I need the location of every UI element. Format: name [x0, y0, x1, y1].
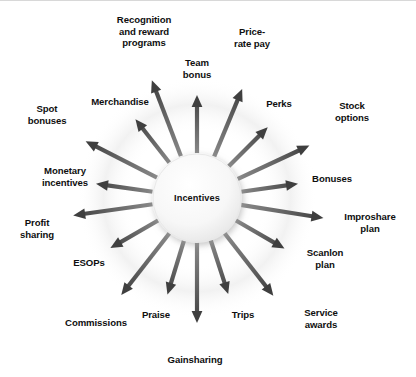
spoke-label-merchandise: Merchandise [91, 96, 149, 108]
spoke-label-scanlon-plan: Scanlon plan [307, 247, 344, 270]
diagram-canvas: Incentives Team bonusPrice- rate payPerk… [0, 0, 416, 377]
spoke-label-bonuses: Bonuses [312, 173, 352, 185]
arrow-head [311, 211, 324, 222]
spoke-label-profit-sharing: Profit sharing [20, 217, 54, 240]
spoke-label-team-bonus: Team bonus [183, 57, 211, 80]
spoke-label-spot-bonuses: Spot bonuses [28, 103, 67, 126]
spoke-label-improshare-plan: Improshare plan [344, 211, 395, 234]
spoke-label-esops: ESOPs [73, 257, 105, 269]
spoke-label-monetary-incentives: Monetary incentives [42, 165, 88, 188]
spoke-label-gainsharing: Gainsharing [168, 354, 223, 366]
spoke-label-service-awards: Service awards [304, 307, 337, 330]
center-hub-label: Incentives [174, 193, 220, 203]
spoke-label-stock-options: Stock options [335, 100, 369, 123]
spoke-label-trips: Trips [232, 309, 254, 321]
spoke-label-praise: Praise [142, 309, 170, 321]
spoke-label-recognition-and-reward-programs: Recognition and reward programs [117, 14, 171, 49]
spoke-label-price-rate-pay: Price- rate pay [234, 26, 270, 49]
spoke-label-commissions: Commissions [65, 317, 127, 329]
spoke-label-perks: Perks [266, 98, 292, 110]
